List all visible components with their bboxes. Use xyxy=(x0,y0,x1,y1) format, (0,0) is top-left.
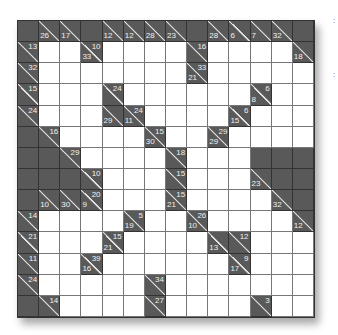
entry-cell[interactable] xyxy=(272,254,293,275)
entry-cell[interactable] xyxy=(166,84,187,105)
entry-cell[interactable] xyxy=(208,254,229,275)
entry-cell[interactable] xyxy=(229,296,250,317)
entry-cell[interactable] xyxy=(39,211,60,232)
entry-cell[interactable] xyxy=(293,84,314,105)
entry-cell[interactable] xyxy=(81,106,102,127)
entry-cell[interactable] xyxy=(272,106,293,127)
entry-cell[interactable] xyxy=(124,42,145,63)
entry-cell[interactable] xyxy=(166,106,187,127)
entry-cell[interactable] xyxy=(166,211,187,232)
entry-cell[interactable] xyxy=(251,63,272,84)
entry-cell[interactable] xyxy=(187,148,208,169)
entry-cell[interactable] xyxy=(187,190,208,211)
entry-cell[interactable] xyxy=(39,84,60,105)
entry-cell[interactable] xyxy=(81,232,102,253)
entry-cell[interactable] xyxy=(124,275,145,296)
entry-cell[interactable] xyxy=(39,106,60,127)
entry-cell[interactable] xyxy=(229,169,250,190)
entry-cell[interactable] xyxy=(272,275,293,296)
entry-cell[interactable] xyxy=(187,275,208,296)
entry-cell[interactable] xyxy=(208,106,229,127)
entry-cell[interactable] xyxy=(208,148,229,169)
entry-cell[interactable] xyxy=(145,42,166,63)
entry-cell[interactable] xyxy=(103,42,124,63)
entry-cell[interactable] xyxy=(124,254,145,275)
entry-cell[interactable] xyxy=(229,63,250,84)
entry-cell[interactable] xyxy=(229,84,250,105)
entry-cell[interactable] xyxy=(229,127,250,148)
entry-cell[interactable] xyxy=(293,232,314,253)
entry-cell[interactable] xyxy=(145,190,166,211)
entry-cell[interactable] xyxy=(208,211,229,232)
entry-cell[interactable] xyxy=(103,127,124,148)
entry-cell[interactable] xyxy=(229,190,250,211)
entry-cell[interactable] xyxy=(145,254,166,275)
entry-cell[interactable] xyxy=(251,232,272,253)
entry-cell[interactable] xyxy=(272,84,293,105)
entry-cell[interactable] xyxy=(60,211,81,232)
entry-cell[interactable] xyxy=(272,127,293,148)
entry-cell[interactable] xyxy=(187,84,208,105)
entry-cell[interactable] xyxy=(208,296,229,317)
entry-cell[interactable] xyxy=(208,275,229,296)
entry-cell[interactable] xyxy=(103,190,124,211)
entry-cell[interactable] xyxy=(208,63,229,84)
entry-cell[interactable] xyxy=(251,42,272,63)
entry-cell[interactable] xyxy=(124,232,145,253)
entry-cell[interactable] xyxy=(187,296,208,317)
entry-cell[interactable] xyxy=(293,275,314,296)
entry-cell[interactable] xyxy=(166,232,187,253)
entry-cell[interactable] xyxy=(60,84,81,105)
entry-cell[interactable] xyxy=(103,254,124,275)
entry-cell[interactable] xyxy=(124,296,145,317)
entry-cell[interactable] xyxy=(81,275,102,296)
entry-cell[interactable] xyxy=(81,84,102,105)
entry-cell[interactable] xyxy=(229,148,250,169)
entry-cell[interactable] xyxy=(251,127,272,148)
entry-cell[interactable] xyxy=(145,148,166,169)
entry-cell[interactable] xyxy=(60,106,81,127)
entry-cell[interactable] xyxy=(103,211,124,232)
entry-cell[interactable] xyxy=(251,106,272,127)
entry-cell[interactable] xyxy=(187,232,208,253)
entry-cell[interactable] xyxy=(60,254,81,275)
entry-cell[interactable] xyxy=(208,169,229,190)
entry-cell[interactable] xyxy=(293,127,314,148)
entry-cell[interactable] xyxy=(124,63,145,84)
entry-cell[interactable] xyxy=(81,127,102,148)
entry-cell[interactable] xyxy=(229,42,250,63)
entry-cell[interactable] xyxy=(81,296,102,317)
entry-cell[interactable] xyxy=(251,275,272,296)
entry-cell[interactable] xyxy=(187,169,208,190)
entry-cell[interactable] xyxy=(251,254,272,275)
entry-cell[interactable] xyxy=(166,275,187,296)
entry-cell[interactable] xyxy=(103,275,124,296)
entry-cell[interactable] xyxy=(229,275,250,296)
entry-cell[interactable] xyxy=(251,190,272,211)
entry-cell[interactable] xyxy=(166,63,187,84)
entry-cell[interactable] xyxy=(81,148,102,169)
entry-cell[interactable] xyxy=(60,63,81,84)
entry-cell[interactable] xyxy=(145,211,166,232)
entry-cell[interactable] xyxy=(293,63,314,84)
entry-cell[interactable] xyxy=(251,211,272,232)
entry-cell[interactable] xyxy=(187,106,208,127)
entry-cell[interactable] xyxy=(39,42,60,63)
entry-cell[interactable] xyxy=(145,63,166,84)
entry-cell[interactable] xyxy=(60,232,81,253)
entry-cell[interactable] xyxy=(272,42,293,63)
entry-cell[interactable] xyxy=(103,148,124,169)
entry-cell[interactable] xyxy=(166,254,187,275)
entry-cell[interactable] xyxy=(272,63,293,84)
entry-cell[interactable] xyxy=(145,84,166,105)
entry-cell[interactable] xyxy=(81,211,102,232)
entry-cell[interactable] xyxy=(39,232,60,253)
entry-cell[interactable] xyxy=(81,63,102,84)
entry-cell[interactable] xyxy=(103,63,124,84)
entry-cell[interactable] xyxy=(166,296,187,317)
entry-cell[interactable] xyxy=(39,275,60,296)
entry-cell[interactable] xyxy=(39,254,60,275)
entry-cell[interactable] xyxy=(145,169,166,190)
entry-cell[interactable] xyxy=(60,42,81,63)
entry-cell[interactable] xyxy=(124,127,145,148)
